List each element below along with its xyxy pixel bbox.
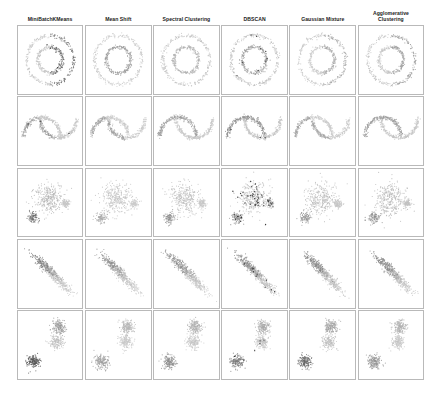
panel-scatter	[86, 169, 151, 237]
panel-scatter	[154, 26, 219, 94]
panel-scatter	[18, 26, 83, 94]
panel-scatter	[154, 97, 219, 165]
panel-scatter	[359, 240, 424, 308]
panel-scatter	[290, 97, 355, 165]
panel-scatter	[18, 311, 83, 379]
panel-scatter	[290, 26, 355, 94]
panel-scatter	[18, 240, 83, 308]
panel-noisy-moons-gaussian-mixture	[289, 96, 356, 166]
panel-varied-blobs-spectral-clustering	[153, 168, 220, 238]
panel-scatter	[86, 240, 151, 308]
panel-noisy-circles-spectral-clustering	[153, 25, 220, 95]
panel-aniso-gaussian-mixture	[289, 239, 356, 309]
panel-varied-blobs-minibatch-kmeans	[17, 168, 84, 238]
panel-aniso-minibatch-kmeans	[17, 239, 84, 309]
column-header-label: DBSCAN	[244, 16, 266, 23]
panel-varied-blobs-agglomerative-clustering	[358, 168, 425, 238]
panel-noisy-circles-dbscan	[221, 25, 288, 95]
panel-noisy-circles-gaussian-mixture	[289, 25, 356, 95]
column-header-mean-shift: Mean Shift	[84, 0, 152, 24]
panel-blobs-agglomerative-clustering	[358, 310, 425, 380]
panel-scatter	[222, 26, 287, 94]
panel-scatter	[154, 240, 219, 308]
panel-grid	[16, 24, 425, 381]
panel-noisy-circles-mean-shift	[85, 25, 152, 95]
column-header-agglomerative-clustering: Agglomerative Clustering	[357, 0, 425, 24]
panel-noisy-moons-agglomerative-clustering	[358, 96, 425, 166]
column-header-gaussian-mixture: Gaussian Mixture	[289, 0, 357, 24]
panel-aniso-spectral-clustering	[153, 239, 220, 309]
panel-blobs-minibatch-kmeans	[17, 310, 84, 380]
panel-noisy-circles-minibatch-kmeans	[17, 25, 84, 95]
panel-scatter	[222, 240, 287, 308]
panel-scatter	[290, 311, 355, 379]
panel-scatter	[222, 97, 287, 165]
panel-aniso-mean-shift	[85, 239, 152, 309]
panel-noisy-moons-spectral-clustering	[153, 96, 220, 166]
panel-noisy-moons-minibatch-kmeans	[17, 96, 84, 166]
panel-scatter	[86, 97, 151, 165]
panel-scatter	[222, 169, 287, 237]
panel-noisy-moons-mean-shift	[85, 96, 152, 166]
panel-scatter	[86, 311, 151, 379]
panel-noisy-circles-agglomerative-clustering	[358, 25, 425, 95]
panel-scatter	[359, 97, 424, 165]
panel-varied-blobs-dbscan	[221, 168, 288, 238]
column-header-minibatch-kmeans: MiniBatchKMeans	[16, 0, 84, 24]
panel-aniso-agglomerative-clustering	[358, 239, 425, 309]
panel-blobs-spectral-clustering	[153, 310, 220, 380]
panel-blobs-dbscan	[221, 310, 288, 380]
clustering-comparison-figure: MiniBatchKMeansMean ShiftSpectral Cluste…	[0, 0, 439, 393]
panel-scatter	[86, 26, 151, 94]
column-header-label: Mean Shift	[105, 16, 131, 23]
column-header-label: MiniBatchKMeans	[28, 16, 73, 23]
panel-scatter	[154, 311, 219, 379]
column-header-label: Agglomerative Clustering	[373, 10, 409, 23]
panel-blobs-gaussian-mixture	[289, 310, 356, 380]
panel-varied-blobs-gaussian-mixture	[289, 168, 356, 238]
panel-scatter	[359, 169, 424, 237]
panel-scatter	[18, 97, 83, 165]
panel-scatter	[290, 240, 355, 308]
column-header-label: Gaussian Mixture	[301, 16, 344, 23]
panel-aniso-dbscan	[221, 239, 288, 309]
panel-noisy-moons-dbscan	[221, 96, 288, 166]
column-header-dbscan: DBSCAN	[221, 0, 289, 24]
column-header-label: Spectral Clustering	[163, 16, 211, 23]
panel-scatter	[222, 311, 287, 379]
panel-scatter	[359, 26, 424, 94]
panel-scatter	[290, 169, 355, 237]
panel-scatter	[154, 169, 219, 237]
panel-scatter	[359, 311, 424, 379]
panel-scatter	[18, 169, 83, 237]
column-header-row: MiniBatchKMeansMean ShiftSpectral Cluste…	[16, 0, 425, 24]
column-header-spectral-clustering: Spectral Clustering	[152, 0, 220, 24]
panel-varied-blobs-mean-shift	[85, 168, 152, 238]
panel-blobs-mean-shift	[85, 310, 152, 380]
